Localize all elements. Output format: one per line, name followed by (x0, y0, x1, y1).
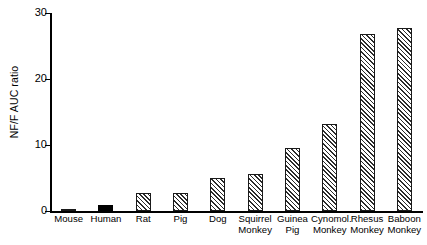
bar (210, 178, 225, 211)
bar (397, 28, 412, 211)
x-axis-label-line: Pig (274, 225, 311, 236)
bar (285, 148, 300, 211)
x-axis-label-line: Pig (162, 214, 199, 225)
x-axis-category-label: Rat (125, 214, 162, 225)
x-axis-label-line: Rhesus (348, 214, 385, 225)
bar (248, 174, 263, 211)
x-axis-category-label: Human (87, 214, 124, 225)
bar (322, 124, 337, 211)
bar (61, 209, 76, 212)
x-axis-category-label: GuineaPig (274, 214, 311, 235)
bar-chart: NF/F AUC ratio 0102030 MouseHumanRatPigD… (0, 0, 427, 245)
y-tick-label: 20 (35, 72, 47, 84)
x-axis-label-line: Dog (199, 214, 236, 225)
x-axis-label-line: Baboon (386, 214, 423, 225)
bar (136, 193, 151, 211)
y-tick-label: 0 (41, 204, 47, 216)
x-axis-category-label: SquirrelMonkey (237, 214, 274, 235)
y-axis-line (50, 13, 52, 211)
x-axis-category-label: Mouse (50, 214, 87, 225)
x-axis-label-line: Mouse (50, 214, 87, 225)
x-axis-label-line: Cynomol. (311, 214, 348, 225)
x-axis-label-line: Guinea (274, 214, 311, 225)
bar (360, 34, 375, 211)
x-axis-label-line: Monkey (237, 225, 274, 236)
x-axis-category-label: BaboonMonkey (386, 214, 423, 235)
y-tick-label: 10 (35, 138, 47, 150)
x-axis-label-line: Human (87, 214, 124, 225)
y-tick-label: 30 (35, 6, 47, 18)
x-axis-category-label: Pig (162, 214, 199, 225)
x-axis-category-label: RhesusMonkey (348, 214, 385, 235)
x-axis-category-label: Cynomol.Monkey (311, 214, 348, 235)
x-axis-label-line: Rat (125, 214, 162, 225)
x-axis-label-line: Squirrel (237, 214, 274, 225)
y-axis-title: NF/F AUC ratio (8, 42, 20, 162)
bar (173, 193, 188, 211)
x-axis-label-line: Monkey (311, 225, 348, 236)
x-axis-label-line: Monkey (386, 225, 423, 236)
bar (98, 205, 113, 211)
x-axis-label-line: Monkey (348, 225, 385, 236)
x-axis-category-label: Dog (199, 214, 236, 225)
plot-area: 0102030 MouseHumanRatPigDogSquirrelMonke… (50, 13, 423, 211)
